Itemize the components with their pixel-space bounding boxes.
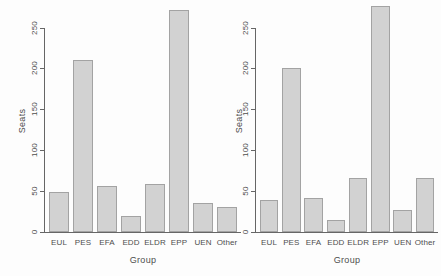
y-tick-mark <box>40 28 44 29</box>
x-tick-label: Other <box>415 238 436 247</box>
bar-eul <box>49 192 69 232</box>
bar-edd <box>327 220 346 232</box>
left-x-axis-title: Group <box>130 255 157 265</box>
bar-uen <box>193 203 213 232</box>
y-tick-label: 150 <box>30 102 39 116</box>
x-tick-label: EUL <box>51 238 67 247</box>
bar-pes <box>73 60 93 232</box>
bar-efa <box>304 198 323 232</box>
y-tick-label: 250 <box>30 21 39 35</box>
y-tick-label: 200 <box>241 61 250 75</box>
x-tick-label: UEN <box>194 238 211 247</box>
y-tick-label: 50 <box>241 186 250 195</box>
y-axis-line <box>255 28 256 234</box>
bar-eldr <box>145 184 165 232</box>
y-tick-label: 0 <box>241 230 250 235</box>
x-axis-line <box>44 232 241 233</box>
y-tick-label: 200 <box>30 61 39 75</box>
left-y-axis-title: Seats <box>17 109 27 134</box>
x-tick-label: Other <box>217 238 238 247</box>
y-tick-label: 100 <box>30 143 39 157</box>
x-tick-label: EUL <box>261 238 277 247</box>
y-tick-label: 50 <box>30 186 39 195</box>
bar-edd <box>121 216 141 232</box>
x-tick-label: EDD <box>122 238 139 247</box>
x-tick-label: UEN <box>394 238 411 247</box>
bar-epp <box>169 10 189 232</box>
right-bar-chart: Seats Group 050100150200250EULPESEFAEDDE… <box>245 0 441 276</box>
y-tick-mark <box>251 232 255 233</box>
y-tick-mark <box>251 150 255 151</box>
x-tick-label: EFA <box>99 238 114 247</box>
bar-eul <box>260 200 279 232</box>
right-x-axis-title: Group <box>334 255 361 265</box>
bar-epp <box>371 6 390 232</box>
y-tick-mark <box>251 191 255 192</box>
y-tick-label: 0 <box>30 230 39 235</box>
y-tick-label: 100 <box>241 143 250 157</box>
left-bar-chart: Seats Group 050100150200250EULPESEFAEDDE… <box>0 0 245 276</box>
x-tick-label: ELDR <box>347 238 369 247</box>
y-axis-line <box>44 28 45 234</box>
bar-uen <box>393 210 412 232</box>
y-tick-mark <box>40 191 44 192</box>
x-tick-label: EDD <box>327 238 344 247</box>
y-tick-mark <box>40 150 44 151</box>
y-tick-mark <box>40 109 44 110</box>
bar-pes <box>282 68 301 232</box>
x-tick-label: EFA <box>306 238 321 247</box>
x-tick-label: ELDR <box>144 238 166 247</box>
y-tick-mark <box>251 109 255 110</box>
x-tick-label: EPP <box>372 238 388 247</box>
bar-other <box>416 178 435 232</box>
bar-eldr <box>349 178 368 232</box>
y-tick-mark <box>40 68 44 69</box>
x-tick-label: PES <box>75 238 91 247</box>
y-tick-mark <box>251 28 255 29</box>
x-tick-label: EPP <box>171 238 187 247</box>
y-tick-label: 150 <box>241 102 250 116</box>
x-axis-line <box>255 232 438 233</box>
y-tick-label: 250 <box>241 21 250 35</box>
bar-efa <box>97 186 117 232</box>
bar-other <box>217 207 237 232</box>
figure-canvas: { "colors": { "background": "#fdfdfd", "… <box>0 0 441 276</box>
x-tick-label: PES <box>283 238 299 247</box>
y-tick-mark <box>40 232 44 233</box>
y-tick-mark <box>251 68 255 69</box>
